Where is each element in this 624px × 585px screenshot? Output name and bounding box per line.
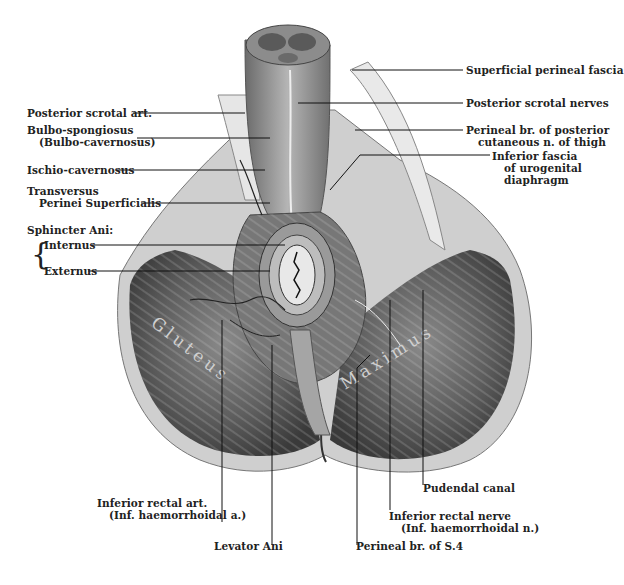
label-text: Levator Ani: [214, 540, 283, 552]
label-text-sub: (Bulbo-cavernosus): [27, 136, 156, 148]
label-text: Inferior rectal art.: [97, 497, 207, 509]
label-text: Externus: [44, 265, 97, 277]
label-sphincter-ani: Sphincter Ani:: [27, 224, 113, 236]
label-externus: Externus: [44, 265, 97, 277]
label-text: Pudendal canal: [423, 482, 515, 494]
label-text: Perineal br. of posterior: [466, 124, 609, 136]
label-internus: Internus: [44, 239, 96, 251]
label-bulbo-spongiosus: Bulbo-spongiosus (Bulbo-cavernosus): [27, 124, 156, 148]
label-levator-ani: Levator Ani: [214, 540, 283, 552]
label-text-sub: diaphragm: [492, 174, 582, 186]
label-text: Sphincter Ani:: [27, 224, 113, 236]
label-transversus-perinei: Transversus Perinei Superficialis: [27, 185, 161, 209]
label-posterior-scrotal-nerves: Posterior scrotal nerves: [466, 97, 609, 109]
label-text-sub: Perinei Superficialis: [27, 197, 161, 209]
label-text-sub: of urogenital: [492, 162, 582, 174]
label-ischio-cavernosus: Ischio-cavernosus: [27, 164, 135, 176]
label-text: Posterior scrotal nerves: [466, 97, 609, 109]
label-pudendal-canal: Pudendal canal: [423, 482, 515, 494]
label-text-sub: cutaneous n. of thigh: [466, 136, 609, 148]
label-inferior-rectal-art: Inferior rectal art. (Inf. haemorrhoidal…: [97, 497, 246, 521]
label-perineal-br-posterior-cutaneous: Perineal br. of posterior cutaneous n. o…: [466, 124, 609, 148]
label-text: Inferior fascia: [492, 150, 577, 162]
label-text: Transversus: [27, 185, 99, 197]
label-inferior-fascia-urogenital: Inferior fascia of urogenital diaphragm: [492, 150, 582, 186]
label-superficial-perineal-fascia: Superficial perineal fascia: [466, 64, 624, 76]
label-text: Posterior scrotal art.: [27, 107, 152, 119]
label-posterior-scrotal-art: Posterior scrotal art.: [27, 107, 152, 119]
label-inferior-rectal-nerve: Inferior rectal nerve (Inf. haemorrhoida…: [389, 510, 539, 534]
label-text-sub: (Inf. haemorrhoidal a.): [97, 509, 246, 521]
label-perineal-br-s4: Perineal br. of S.4: [356, 540, 463, 552]
label-text-sub: (Inf. haemorrhoidal n.): [389, 522, 539, 534]
label-text: Inferior rectal nerve: [389, 510, 511, 522]
label-text: Superficial perineal fascia: [466, 64, 624, 76]
label-text: Internus: [44, 239, 96, 251]
label-text: Bulbo-spongiosus: [27, 124, 133, 136]
label-text: Perineal br. of S.4: [356, 540, 463, 552]
label-text: Ischio-cavernosus: [27, 164, 135, 176]
